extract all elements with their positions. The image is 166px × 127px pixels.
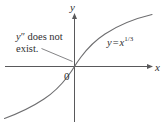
annotation-leader-line [42,49,73,62]
origin-label: 0 [64,71,70,82]
graph-canvas [0,0,166,127]
y-axis-arrowhead-icon [72,13,77,19]
cube-root-function-figure: y x 0 y″ does not exist. y=x1/3 [0,0,166,127]
annotation-line-1: y″ does not [16,32,63,43]
annotation-text: does not [25,31,63,42]
equation-exponent: 1/3 [124,35,133,43]
equation-equals-sign: = [112,37,120,48]
x-axis-label: x [155,62,160,73]
annotation-line-2: exist. [16,44,38,55]
equation-lhs: y [107,37,112,48]
x-axis-arrowhead-icon [147,64,153,69]
y-axis-label: y [70,2,75,13]
equation-label: y=x1/3 [107,36,133,48]
